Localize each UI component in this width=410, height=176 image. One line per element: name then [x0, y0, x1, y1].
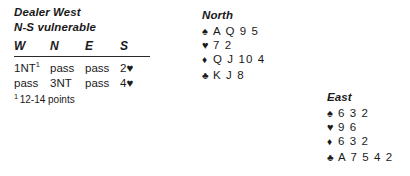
- auction-header-east: E: [85, 39, 120, 57]
- auction-call-north: 3NT: [50, 75, 85, 90]
- auction-header-west: W: [14, 39, 50, 57]
- spade-icon: ♠: [202, 24, 213, 38]
- suit-cards-clubs: K J 8: [213, 69, 245, 81]
- spade-icon: ♠: [327, 106, 338, 120]
- suit-row-diamonds: ♦6 3 2: [327, 134, 393, 149]
- auction-header-south: S: [120, 39, 150, 57]
- hand-label-east: East: [327, 90, 393, 104]
- suit-row-hearts: ♥7 2: [202, 38, 265, 52]
- auction-call-south: 4♥: [120, 75, 150, 90]
- auction-call-text: 1NT: [14, 62, 36, 74]
- diamond-icon: ♦: [327, 135, 338, 149]
- suit-row-clubs: ♣K J 8: [202, 68, 265, 83]
- hand-north: North ♠A Q 9 5 ♥7 2 ♦Q J 10 4 ♣K J 8: [202, 8, 265, 83]
- auction-table: W N E S 1NT1 pass pass 2♥ pass 3NT pass …: [14, 39, 150, 90]
- auction-call-west: 1NT1: [14, 57, 50, 76]
- vulnerability-line: N-S vulnerable: [14, 20, 189, 35]
- suit-cards-diamonds: 6 3 2: [338, 135, 369, 147]
- suit-cards-diamonds: Q J 10 4: [213, 53, 265, 65]
- club-icon: ♣: [327, 151, 338, 165]
- suit-row-spades: ♠6 3 2: [327, 106, 393, 120]
- auction-block: Dealer West N-S vulnerable W N E S 1NT1 …: [14, 5, 189, 106]
- footnote-text: 12-14 points: [20, 94, 75, 105]
- footnote-marker: 1: [14, 92, 18, 101]
- auction-call-north: pass: [50, 57, 85, 76]
- auction-row: pass 3NT pass 4♥: [14, 75, 150, 90]
- suit-row-clubs: ♣A 7 5 4 2: [327, 150, 393, 165]
- auction-call-south: 2♥: [120, 57, 150, 76]
- suit-cards-hearts: 9 6: [338, 121, 357, 133]
- diamond-icon: ♦: [202, 53, 213, 67]
- heart-icon: ♥: [202, 38, 213, 52]
- auction-row: 1NT1 pass pass 2♥: [14, 57, 150, 76]
- footnote-superscript: 1: [36, 60, 40, 69]
- suit-row-diamonds: ♦Q J 10 4: [202, 52, 265, 67]
- club-icon: ♣: [202, 69, 213, 83]
- auction-call-east: pass: [85, 57, 120, 76]
- hand-label-north: North: [202, 8, 265, 22]
- suit-cards-spades: 6 3 2: [338, 107, 369, 119]
- suit-cards-hearts: 7 2: [213, 39, 232, 51]
- suit-cards-clubs: A 7 5 4 2: [338, 151, 393, 163]
- auction-header-north: N: [50, 39, 85, 57]
- dealer-line: Dealer West: [14, 5, 189, 20]
- auction-header-row: W N E S: [14, 39, 150, 57]
- heart-icon: ♥: [327, 120, 338, 134]
- hand-east: East ♠6 3 2 ♥9 6 ♦6 3 2 ♣A 7 5 4 2: [327, 90, 393, 165]
- auction-call-east: pass: [85, 75, 120, 90]
- suit-row-hearts: ♥9 6: [327, 120, 393, 134]
- auction-call-west: pass: [14, 75, 50, 90]
- auction-footnote: 112-14 points: [14, 93, 189, 106]
- suit-cards-spades: A Q 9 5: [213, 25, 259, 37]
- suit-row-spades: ♠A Q 9 5: [202, 24, 265, 38]
